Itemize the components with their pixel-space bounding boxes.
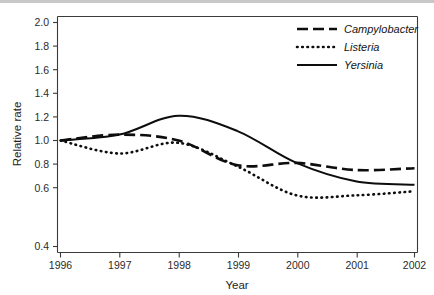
x-axis-title: Year — [225, 279, 248, 291]
y-tick-label-2.0: 2.0 — [34, 16, 49, 28]
chart-legend: Campylobacter Listeria Yersinia — [297, 23, 419, 71]
x-tick-label-2002: 2002 — [403, 259, 427, 271]
x-axis-tick-labels: 1996 1997 1998 1999 2000 2001 2002 — [49, 259, 427, 271]
x-tick-label-1999: 1999 — [227, 259, 251, 271]
y-tick-label-1.6: 1.6 — [34, 64, 49, 76]
legend-label-campylobacter: Campylobacter — [344, 23, 419, 35]
y-tick-label-1.0: 1.0 — [34, 134, 49, 146]
series-line-campylobacter — [61, 135, 415, 171]
y-tick-label-1.2: 1.2 — [34, 111, 49, 123]
chart-figure: 2.0 1.8 1.6 1.4 1.2 1.0 0.8 0.6 0.4 1996… — [0, 0, 434, 295]
data-series-group — [61, 116, 415, 198]
x-tick-label-2001: 2001 — [346, 259, 370, 271]
x-tick-label-1997: 1997 — [108, 259, 132, 271]
legend-label-listeria: Listeria — [344, 41, 379, 53]
y-tick-label-0.4: 0.4 — [34, 240, 49, 252]
y-tick-label-1.8: 1.8 — [34, 40, 49, 52]
line-chart-svg: 2.0 1.8 1.6 1.4 1.2 1.0 0.8 0.6 0.4 1996… — [0, 0, 434, 295]
x-tick-label-1996: 1996 — [49, 259, 73, 271]
legend-label-yersinia: Yersinia — [344, 59, 383, 71]
y-axis-title: Relative rate — [11, 102, 23, 167]
x-tick-label-1998: 1998 — [168, 259, 192, 271]
y-axis-tick-labels: 2.0 1.8 1.6 1.4 1.2 1.0 0.8 0.6 0.4 — [34, 16, 49, 252]
y-tick-label-0.6: 0.6 — [34, 182, 49, 194]
y-tick-label-1.4: 1.4 — [34, 87, 49, 99]
x-tick-label-2000: 2000 — [286, 259, 310, 271]
y-tick-label-0.8: 0.8 — [34, 158, 49, 170]
series-line-yersinia — [61, 116, 415, 185]
y-axis-ticks — [53, 23, 58, 247]
x-axis-ticks — [61, 253, 415, 258]
